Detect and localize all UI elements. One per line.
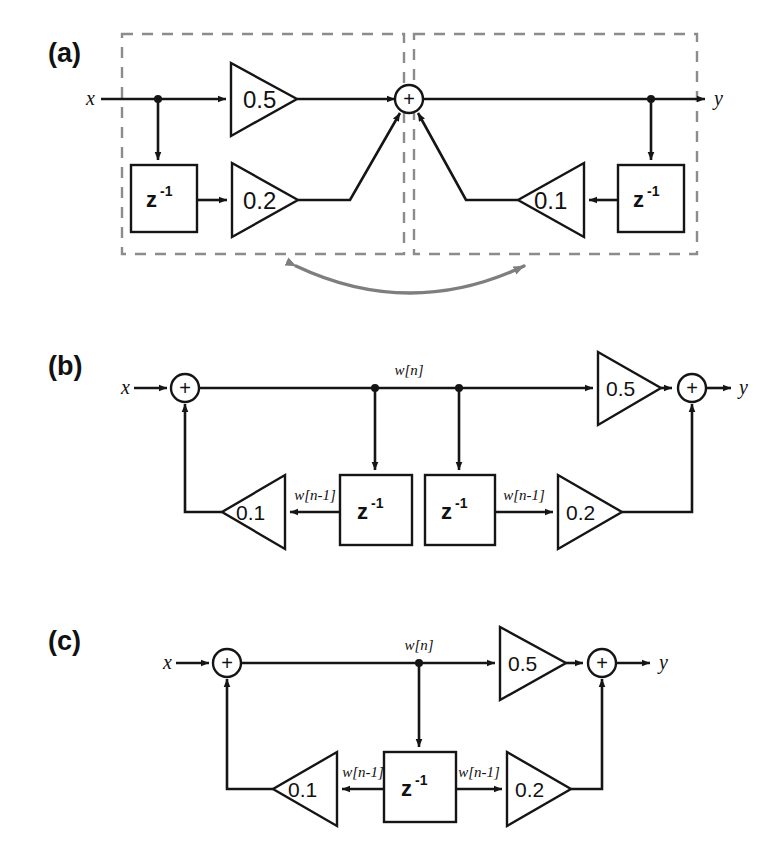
panel-b-wn1-left-label: w[n-1] <box>294 487 336 503</box>
panel-a-label: (a) <box>48 38 81 68</box>
panel-c-wn1-left-label: w[n-1] <box>342 764 384 780</box>
panel-a-delay-right-base: z <box>633 187 644 212</box>
panel-c-delay-exponent: -1 <box>415 772 428 788</box>
panel-a-gain-02-label: 0.2 <box>243 187 276 214</box>
panel-b-output-label: y <box>737 376 748 399</box>
panel-b-input-sum-symbol: + <box>179 377 191 399</box>
panel-b-input-label: x <box>120 376 130 398</box>
block-diagram-svg: (a) x 0.5 z -1 0.2 + y <box>0 0 761 856</box>
panel-a-sum-symbol: + <box>403 88 415 110</box>
panel-a-gain-05-label: 0.5 <box>243 86 276 113</box>
panel-b-delay-2-exponent: -1 <box>455 495 468 511</box>
panel-a-gain-01-label: 0.1 <box>534 187 567 214</box>
panel-b-output-sum-symbol: + <box>686 377 698 399</box>
panel-b-wn-label: w[n] <box>394 362 423 378</box>
panel-c-gain-02-label: 0.2 <box>515 778 544 801</box>
panel-b-gain-05-label: 0.5 <box>606 377 635 400</box>
panel-b-delay-2-base: z <box>441 499 452 524</box>
panel-c-gain-05-label: 0.5 <box>508 652 537 675</box>
panel-c-wn1-right-label: w[n-1] <box>458 764 500 780</box>
panel-c-output-label: y <box>657 651 668 674</box>
panel-c-output-sum-symbol: + <box>596 652 608 674</box>
panel-b-label: (b) <box>48 351 82 381</box>
panel-a-delay-left-base: z <box>146 187 157 212</box>
panel-c-gain-01-label: 0.1 <box>288 778 317 801</box>
panel-c-input-label: x <box>162 651 172 673</box>
canvas-background <box>0 0 761 856</box>
panel-b-gain-01-label: 0.1 <box>236 501 265 524</box>
panel-a-input-label: x <box>85 87 95 109</box>
panel-b-delay-1-exponent: -1 <box>371 495 384 511</box>
panel-a-delay-left-exponent: -1 <box>160 183 173 199</box>
panel-b-gain-02-label: 0.2 <box>566 501 595 524</box>
panel-b-delay-1-base: z <box>357 499 368 524</box>
panel-a-output-label: y <box>712 87 723 110</box>
panel-c-wn-label: w[n] <box>404 637 433 653</box>
panel-c-input-sum-symbol: + <box>221 652 233 674</box>
panel-c-delay-base: z <box>401 776 412 801</box>
panel-b-wn1-right-label: w[n-1] <box>503 487 545 503</box>
panel-a-delay-right-exponent: -1 <box>647 183 660 199</box>
panel-c-label: (c) <box>48 626 81 656</box>
figure-root: (a) x 0.5 z -1 0.2 + y <box>0 0 761 856</box>
